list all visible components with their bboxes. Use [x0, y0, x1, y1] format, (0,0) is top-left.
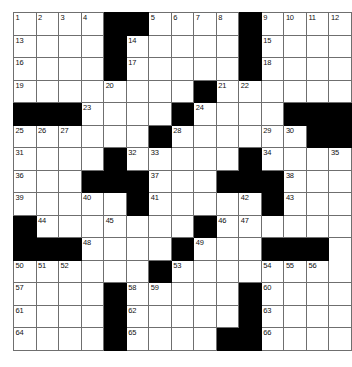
open-letter-square[interactable] — [126, 215, 149, 238]
open-letter-square[interactable] — [194, 283, 217, 306]
open-letter-square[interactable] — [149, 103, 172, 126]
open-letter-square[interactable] — [329, 193, 352, 216]
open-letter-square[interactable] — [261, 80, 284, 103]
open-letter-square[interactable] — [81, 35, 104, 58]
open-letter-square[interactable] — [194, 305, 217, 328]
open-letter-square[interactable]: 1 — [14, 13, 37, 36]
open-letter-square[interactable]: 16 — [14, 58, 37, 81]
open-letter-square[interactable]: 61 — [14, 305, 37, 328]
open-letter-square[interactable] — [81, 328, 104, 351]
open-letter-square[interactable] — [284, 148, 307, 171]
open-letter-square[interactable]: 42 — [239, 193, 262, 216]
open-letter-square[interactable]: 62 — [126, 305, 149, 328]
open-letter-square[interactable] — [126, 103, 149, 126]
open-letter-square[interactable] — [149, 215, 172, 238]
open-letter-square[interactable]: 37 — [149, 170, 172, 193]
open-letter-square[interactable] — [171, 215, 194, 238]
open-letter-square[interactable]: 29 — [261, 125, 284, 148]
open-letter-square[interactable] — [216, 58, 239, 81]
open-letter-square[interactable] — [149, 35, 172, 58]
open-letter-square[interactable]: 31 — [14, 148, 37, 171]
open-letter-square[interactable] — [81, 125, 104, 148]
open-letter-square[interactable] — [239, 103, 262, 126]
open-letter-square[interactable] — [239, 125, 262, 148]
open-letter-square[interactable]: 50 — [14, 260, 37, 283]
open-letter-square[interactable] — [81, 305, 104, 328]
open-letter-square[interactable] — [306, 193, 329, 216]
open-letter-square[interactable]: 30 — [284, 125, 307, 148]
open-letter-square[interactable]: 43 — [284, 193, 307, 216]
crossword-grid[interactable]: 1234567891011121314151617181920212223242… — [13, 12, 352, 351]
open-letter-square[interactable] — [171, 283, 194, 306]
open-letter-square[interactable]: 10 — [284, 13, 307, 36]
open-letter-square[interactable] — [306, 328, 329, 351]
open-letter-square[interactable] — [171, 305, 194, 328]
open-letter-square[interactable] — [81, 58, 104, 81]
open-letter-square[interactable]: 51 — [36, 260, 59, 283]
open-letter-square[interactable] — [149, 328, 172, 351]
open-letter-square[interactable]: 25 — [14, 125, 37, 148]
open-letter-square[interactable]: 63 — [261, 305, 284, 328]
open-letter-square[interactable] — [239, 238, 262, 261]
open-letter-square[interactable]: 58 — [126, 283, 149, 306]
open-letter-square[interactable] — [306, 305, 329, 328]
open-letter-square[interactable]: 32 — [126, 148, 149, 171]
open-letter-square[interactable]: 49 — [194, 238, 217, 261]
open-letter-square[interactable]: 24 — [194, 103, 217, 126]
open-letter-square[interactable] — [171, 80, 194, 103]
open-letter-square[interactable] — [329, 283, 352, 306]
open-letter-square[interactable] — [329, 328, 352, 351]
open-letter-square[interactable] — [36, 283, 59, 306]
open-letter-square[interactable] — [59, 35, 82, 58]
open-letter-square[interactable]: 17 — [126, 58, 149, 81]
open-letter-square[interactable] — [194, 170, 217, 193]
open-letter-square[interactable]: 44 — [36, 215, 59, 238]
open-letter-square[interactable] — [284, 80, 307, 103]
open-letter-square[interactable]: 36 — [14, 170, 37, 193]
open-letter-square[interactable] — [171, 170, 194, 193]
open-letter-square[interactable]: 15 — [261, 35, 284, 58]
open-letter-square[interactable]: 7 — [194, 13, 217, 36]
open-letter-square[interactable] — [126, 125, 149, 148]
open-letter-square[interactable] — [59, 148, 82, 171]
open-letter-square[interactable] — [59, 80, 82, 103]
open-letter-square[interactable] — [194, 328, 217, 351]
open-letter-square[interactable] — [216, 35, 239, 58]
open-letter-square[interactable]: 34 — [261, 148, 284, 171]
open-letter-square[interactable] — [59, 58, 82, 81]
open-letter-square[interactable] — [194, 58, 217, 81]
open-letter-square[interactable] — [194, 35, 217, 58]
open-letter-square[interactable] — [194, 125, 217, 148]
open-letter-square[interactable] — [216, 148, 239, 171]
open-letter-square[interactable]: 40 — [81, 193, 104, 216]
open-letter-square[interactable] — [261, 103, 284, 126]
open-letter-square[interactable]: 48 — [81, 238, 104, 261]
open-letter-square[interactable] — [261, 215, 284, 238]
open-letter-square[interactable]: 57 — [14, 283, 37, 306]
open-letter-square[interactable] — [59, 283, 82, 306]
open-letter-square[interactable]: 19 — [14, 80, 37, 103]
open-letter-square[interactable] — [149, 58, 172, 81]
open-letter-square[interactable] — [36, 193, 59, 216]
open-letter-square[interactable] — [329, 58, 352, 81]
open-letter-square[interactable] — [216, 238, 239, 261]
open-letter-square[interactable] — [171, 58, 194, 81]
open-letter-square[interactable]: 3 — [59, 13, 82, 36]
open-letter-square[interactable]: 38 — [284, 170, 307, 193]
open-letter-square[interactable] — [216, 305, 239, 328]
open-letter-square[interactable]: 47 — [239, 215, 262, 238]
open-letter-square[interactable] — [171, 35, 194, 58]
open-letter-square[interactable] — [81, 148, 104, 171]
open-letter-square[interactable]: 2 — [36, 13, 59, 36]
open-letter-square[interactable]: 9 — [261, 13, 284, 36]
open-letter-square[interactable]: 8 — [216, 13, 239, 36]
open-letter-square[interactable] — [36, 58, 59, 81]
open-letter-square[interactable]: 56 — [306, 260, 329, 283]
open-letter-square[interactable]: 59 — [149, 283, 172, 306]
open-letter-square[interactable]: 64 — [14, 328, 37, 351]
open-letter-square[interactable]: 26 — [36, 125, 59, 148]
open-letter-square[interactable]: 41 — [149, 193, 172, 216]
open-letter-square[interactable]: 6 — [171, 13, 194, 36]
open-letter-square[interactable] — [81, 215, 104, 238]
open-letter-square[interactable]: 12 — [329, 13, 352, 36]
